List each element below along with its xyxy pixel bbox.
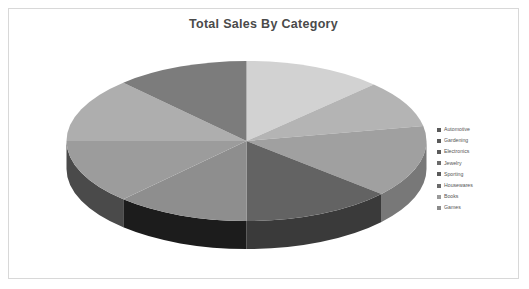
legend-item-housewares[interactable]: Housewares xyxy=(437,180,517,191)
legend-swatch-icon xyxy=(437,150,441,154)
legend-item-gardening[interactable]: Gardening xyxy=(437,135,517,146)
legend-item-label: Automotive xyxy=(444,124,470,135)
legend-item-electronics[interactable]: Electronics xyxy=(437,146,517,157)
legend-item-automotive[interactable]: Automotive xyxy=(437,124,517,135)
page-title: Total Sales By Category xyxy=(9,17,518,31)
legend-item-games[interactable]: Games xyxy=(437,202,517,213)
pie-chart[interactable] xyxy=(59,49,434,264)
legend-swatch-icon xyxy=(437,195,441,199)
legend-swatch-icon xyxy=(437,128,441,132)
legend: AutomotiveGardeningElectronicsJewelrySpo… xyxy=(437,124,517,214)
legend-item-sporting[interactable]: Sporting xyxy=(437,169,517,180)
legend-swatch-icon xyxy=(437,184,441,188)
legend-swatch-icon xyxy=(437,206,441,210)
pie-svg xyxy=(59,49,434,264)
legend-item-books[interactable]: Books xyxy=(437,191,517,202)
legend-item-label: Electronics xyxy=(444,146,469,157)
chart-frame: Total Sales By Category AutomotiveGarden… xyxy=(8,8,519,279)
legend-item-label: Jewelry xyxy=(444,158,462,169)
legend-swatch-icon xyxy=(437,161,441,165)
legend-swatch-icon xyxy=(437,172,441,176)
legend-item-jewelry[interactable]: Jewelry xyxy=(437,158,517,169)
legend-item-label: Sporting xyxy=(444,169,463,180)
legend-item-label: Games xyxy=(444,202,461,213)
legend-item-label: Housewares xyxy=(444,180,473,191)
pie-top-surface xyxy=(67,61,427,221)
legend-item-label: Gardening xyxy=(444,135,468,146)
legend-item-label: Books xyxy=(444,191,458,202)
legend-swatch-icon xyxy=(437,139,441,143)
